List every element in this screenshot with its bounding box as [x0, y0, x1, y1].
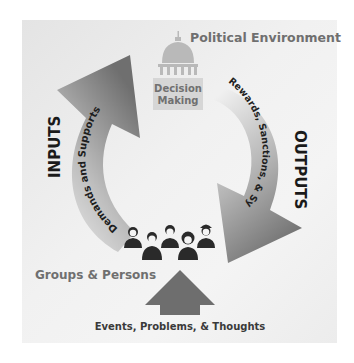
political-system-diagram: Demands and Supports Rewards, Sanctions,…	[0, 0, 354, 363]
title-political-environment: Political Environment	[190, 30, 341, 45]
inputs-arrow	[57, 55, 140, 252]
decision-label-line2: Making	[157, 95, 198, 106]
groups-persons-label: Groups & Persons	[35, 268, 156, 282]
person-icon	[161, 225, 179, 248]
outputs-arrow	[214, 84, 302, 263]
person-icon	[142, 232, 162, 260]
person-icon	[197, 225, 215, 249]
person-icon	[178, 232, 198, 261]
events-problems-thoughts-label: Events, Problems, & Thoughts	[95, 321, 266, 332]
inputs-label: INPUTS	[46, 116, 64, 178]
people-group-icon	[124, 225, 215, 261]
decision-label-line1: Decision	[154, 83, 202, 94]
outputs-label: OUTPUTS	[291, 130, 309, 209]
